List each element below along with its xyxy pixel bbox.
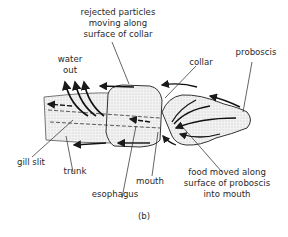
trunk-label: trunk — [60, 166, 90, 177]
panel-label: (b) — [134, 211, 154, 222]
collar-label: collar — [184, 57, 218, 68]
esophagus-label: esophagus — [90, 189, 140, 200]
mouth-label: mouth — [132, 176, 168, 187]
gill-slit-label: gill slit — [14, 157, 48, 168]
rejected-particles-label: rejected particles moving along surface … — [68, 7, 168, 40]
water-out-label: water out — [55, 54, 85, 76]
food-moved-label: food moved along surface of proboscis in… — [182, 167, 272, 200]
acorn-worm-diagram: rejected particles moving along surface … — [0, 0, 288, 237]
proboscis-label: proboscis — [231, 47, 281, 58]
trunk-body — [44, 93, 112, 143]
